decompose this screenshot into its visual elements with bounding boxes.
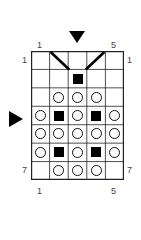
filled-square-symbol-icon: [54, 111, 64, 121]
circle-symbol-icon: [35, 147, 46, 158]
left-label-top: 1: [22, 55, 27, 65]
knitting-chart-grid: [31, 51, 124, 180]
left-label-bottom: 7: [22, 165, 27, 175]
top-arrow-marker: [69, 31, 85, 43]
circle-symbol-icon: [35, 110, 46, 121]
side-arrow-marker: [9, 111, 23, 127]
right-label-top: 1: [127, 55, 132, 65]
bottom-label-left: 1: [37, 186, 42, 196]
circle-symbol-icon: [91, 165, 102, 176]
circle-symbol-icon: [91, 92, 102, 103]
circle-symbol-icon: [91, 128, 102, 139]
circle-symbol-icon: [72, 110, 83, 121]
circle-symbol-icon: [72, 92, 83, 103]
filled-square-symbol-icon: [91, 147, 101, 157]
right-label-bottom: 7: [127, 165, 132, 175]
filled-square-symbol-icon: [73, 74, 83, 84]
filled-square-symbol-icon: [91, 111, 101, 121]
bottom-label-right: 5: [111, 186, 116, 196]
top-label-right: 5: [111, 40, 116, 50]
circle-symbol-icon: [53, 92, 64, 103]
circle-symbol-icon: [109, 147, 120, 158]
decrease-right-line-icon: [86, 52, 105, 69]
filled-square-symbol-icon: [54, 147, 64, 157]
circle-symbol-icon: [72, 147, 83, 158]
top-label-left: 1: [37, 40, 42, 50]
decrease-left-line-icon: [51, 52, 70, 69]
